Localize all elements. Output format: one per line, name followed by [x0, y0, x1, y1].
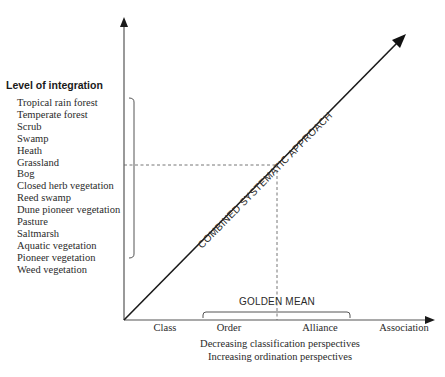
rank-label-association: Association: [379, 322, 429, 333]
vegetation-type: Saltmarsh: [17, 228, 120, 240]
vegetation-type-list: Tropical rain forest Temperate forest Sc…: [17, 97, 120, 276]
vegetation-type: Dune pioneer vegetation: [17, 204, 120, 216]
vegetation-type: Reed swamp: [17, 192, 120, 204]
vegetation-type: Pasture: [17, 216, 120, 228]
vegetation-type: Tropical rain forest: [17, 97, 120, 109]
vegetation-type: Pioneer vegetation: [17, 252, 120, 264]
x-axis-caption-ordination: Increasing ordination perspectives: [208, 351, 352, 362]
rank-label-alliance: Alliance: [302, 322, 338, 333]
vegetation-type: Bog: [17, 168, 120, 180]
vegetation-type: Grassland: [17, 157, 120, 169]
x-axis-caption-classification: Decreasing classification perspectives: [200, 338, 360, 349]
y-axis-arrow-icon: [120, 17, 128, 27]
vegetation-type: Aquatic vegetation: [17, 240, 120, 252]
golden-mean-label: GOLDEN MEAN: [239, 296, 315, 307]
rank-label-order: Order: [217, 322, 242, 333]
y-axis-title: Level of integration: [6, 79, 103, 91]
vegetation-type: Closed herb vegetation: [17, 180, 120, 192]
rank-label-class: Class: [154, 322, 177, 333]
diagram-canvas: Level of integration Tropical rain fores…: [0, 0, 445, 377]
vegetation-type: Temperate forest: [17, 109, 120, 121]
golden-mean-bracket: [203, 312, 350, 318]
vegetation-type: Swamp: [17, 133, 120, 145]
vegetation-type: Heath: [17, 145, 120, 157]
vegetation-bracket: [129, 98, 134, 258]
vegetation-type: Weed vegetation: [17, 264, 120, 276]
vegetation-type: Scrub: [17, 121, 120, 133]
